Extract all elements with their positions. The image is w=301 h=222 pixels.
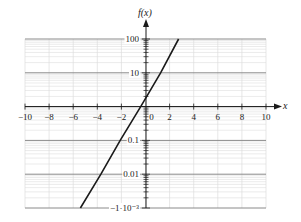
x-tick-label: 8: [240, 112, 245, 122]
x-tick-label: −6: [68, 112, 78, 122]
x-tick-label: −2: [117, 112, 127, 122]
y-axis-title: f(x): [138, 7, 153, 19]
tick-labels: −10−8−6−4−20246810100100.10.01−1·10⁻³: [18, 34, 271, 213]
x-axis-title: x: [282, 100, 288, 111]
data-line: [80, 39, 178, 208]
x-tick-label: 4: [191, 112, 196, 122]
y-tick-label: 100: [126, 34, 140, 44]
y-tick-label: 0.01: [123, 169, 139, 179]
x-tick-label: −4: [93, 112, 103, 122]
x-tick-label: −8: [44, 112, 54, 122]
x-tick-label: 0: [149, 112, 154, 122]
log-plot: −10−8−6−4−20246810100100.10.01−1·10⁻³ x …: [0, 0, 301, 222]
x-tick-label: 2: [167, 112, 172, 122]
data-series: [80, 39, 178, 208]
x-tick-label: 10: [262, 112, 272, 122]
y-tick-label: 0.1: [128, 135, 139, 145]
y-tick-label: −1·10⁻³: [110, 203, 139, 213]
x-tick-label: 6: [216, 112, 221, 122]
x-tick-label: −10: [18, 112, 33, 122]
y-axis-arrow-icon: [143, 19, 149, 27]
x-axis-arrow-icon: [274, 104, 282, 110]
y-tick-label: 10: [130, 68, 140, 78]
